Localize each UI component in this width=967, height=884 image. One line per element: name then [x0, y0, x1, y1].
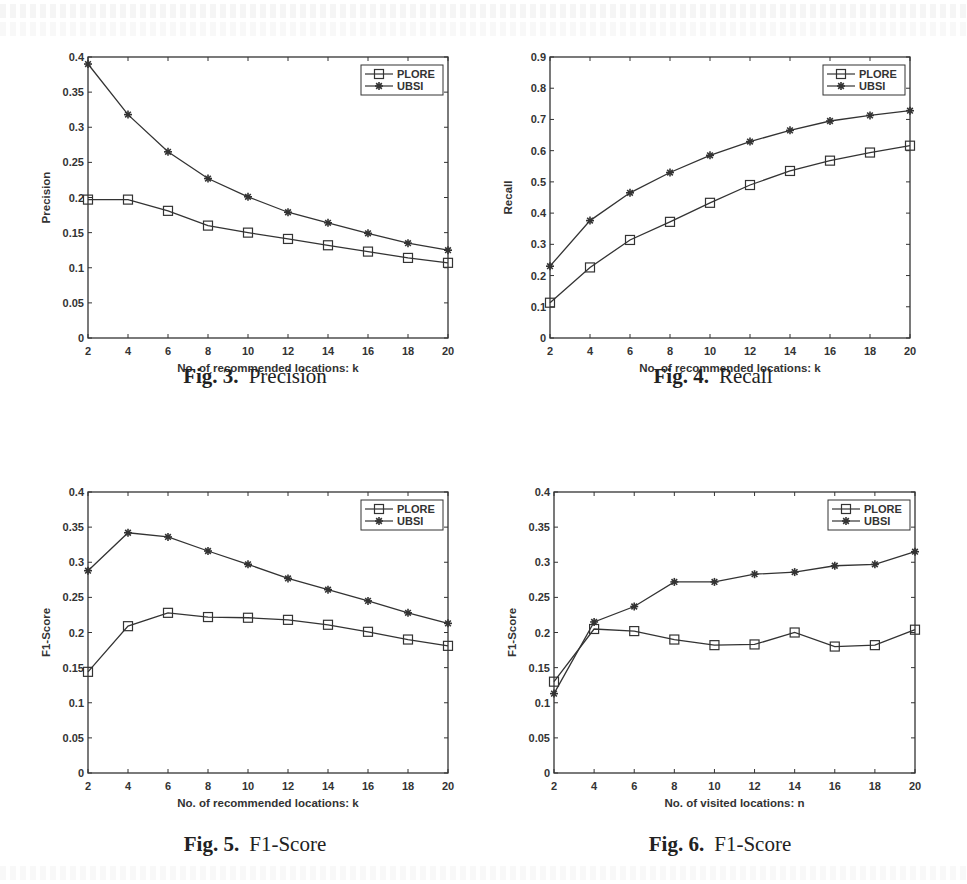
star-marker: [791, 568, 799, 576]
star-marker: [590, 618, 598, 626]
series-ubsi: [550, 548, 919, 698]
star-marker: [751, 570, 759, 578]
chart-f1-score-n: 246810121416182000.050.10.150.20.250.30.…: [0, 0, 967, 884]
x-tick-label: 12: [748, 780, 760, 792]
y-tick-label: 0: [544, 767, 550, 779]
x-tick-label: 20: [909, 780, 921, 792]
x-tick-label: 8: [671, 780, 677, 792]
y-axis-label: F1-Score: [506, 608, 518, 657]
star-marker: [842, 517, 850, 525]
x-tick-label: 4: [591, 780, 598, 792]
y-tick-label: 0.35: [529, 521, 550, 533]
x-tick-label: 6: [631, 780, 637, 792]
star-marker: [630, 603, 638, 611]
plot-frame: [554, 492, 915, 773]
x-tick-label: 14: [789, 780, 802, 792]
caption-number: Fig. 6.: [649, 832, 704, 856]
series-plore: [550, 624, 920, 686]
x-tick-label: 18: [869, 780, 881, 792]
star-marker: [831, 562, 839, 570]
legend-item-plore: PLORE: [832, 503, 902, 515]
star-marker: [670, 578, 678, 586]
y-tick-label: 0.4: [535, 486, 551, 498]
y-tick-label: 0.05: [529, 732, 550, 744]
star-marker: [871, 560, 879, 568]
legend: PLOREUBSI: [828, 500, 910, 530]
legend-label: UBSI: [864, 515, 890, 527]
y-tick-label: 0.25: [529, 591, 550, 603]
caption-fig6: Fig. 6.F1-Score: [649, 832, 791, 857]
x-tick-label: 16: [829, 780, 841, 792]
caption-title: F1-Score: [714, 832, 791, 856]
star-marker: [911, 548, 919, 556]
star-marker: [710, 578, 718, 586]
x-tick-label: 10: [708, 780, 720, 792]
x-tick-label: 2: [551, 780, 557, 792]
y-tick-label: 0.2: [535, 627, 550, 639]
legend-label: PLORE: [864, 503, 902, 515]
y-tick-label: 0.3: [535, 556, 550, 568]
y-tick-label: 0.15: [529, 662, 550, 674]
figure-f1-n: 246810121416182000.050.10.150.20.250.30.…: [0, 0, 967, 884]
star-marker: [550, 690, 558, 698]
y-tick-label: 0.1: [535, 697, 550, 709]
x-axis-label: No. of visited locations: n: [665, 797, 805, 809]
x-axis-ticks: 2468101214161820: [551, 492, 921, 792]
